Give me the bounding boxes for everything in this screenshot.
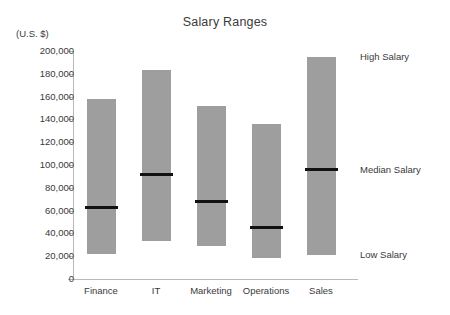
y-axis-tick-label: 60,000: [18, 205, 74, 216]
y-axis-tick-label: 140,000: [18, 113, 74, 124]
y-axis-tick-label: 100,000: [18, 159, 74, 170]
y-axis-tick-label: 80,000: [18, 182, 74, 193]
bar-range-rect[interactable]: [142, 70, 171, 241]
salary-ranges-chart: Salary Ranges (U.S. $) 200,000180,000160…: [0, 0, 450, 315]
chart-annotation-label: Median Salary: [360, 164, 421, 175]
bar-range-rect[interactable]: [87, 99, 116, 254]
bar-range-rect[interactable]: [307, 57, 336, 255]
bar-median-line: [250, 226, 283, 229]
bar-range-rect[interactable]: [197, 106, 226, 246]
x-axis-line: [73, 279, 358, 280]
bar-median-line: [195, 200, 228, 203]
y-axis-tick-label: 20,000: [18, 250, 74, 261]
y-axis-tick-label: 180,000: [18, 68, 74, 79]
plot-area: 200,000180,000160,000140,000120,000100,0…: [0, 0, 450, 315]
x-axis-category-label: Sales: [276, 285, 366, 296]
chart-annotation-label: Low Salary: [360, 249, 407, 260]
bar-median-line: [85, 206, 118, 209]
bar-median-line: [305, 168, 338, 171]
bar-range-rect[interactable]: [252, 124, 281, 259]
y-axis-tick-label: 200,000: [18, 45, 74, 56]
y-axis-tick-label: 120,000: [18, 136, 74, 147]
chart-annotation-label: High Salary: [360, 51, 409, 62]
y-axis-tick-label: 0: [18, 273, 74, 284]
y-axis-tick-label: 40,000: [18, 227, 74, 238]
bar-median-line: [140, 173, 173, 176]
y-axis-tick-label: 160,000: [18, 91, 74, 102]
